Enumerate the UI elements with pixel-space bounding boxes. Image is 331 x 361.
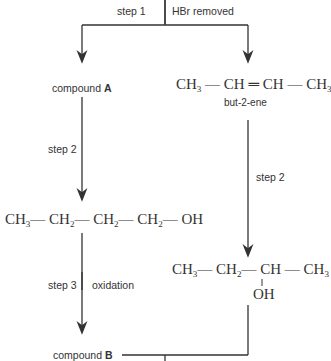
compound-b: compound B [53,350,113,361]
step3-note: oxidation [92,280,134,291]
step3-label: step 3 [48,280,77,291]
oh-label: OH [253,287,275,302]
